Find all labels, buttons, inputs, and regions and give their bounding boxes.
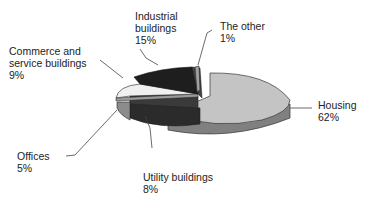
label-commerce-name-1: Commerce and <box>9 45 87 57</box>
label-commerce-name-2: service buildings <box>9 57 87 69</box>
label-housing: Housing 62% <box>318 99 357 123</box>
label-offices-pct: 5% <box>17 162 49 174</box>
label-commerce-pct: 9% <box>9 69 87 81</box>
label-utility-pct: 8% <box>143 183 213 195</box>
pie-chart <box>0 0 367 200</box>
label-utility-buildings: Utility buildings 8% <box>143 171 213 195</box>
label-other-name: The other <box>220 20 265 32</box>
label-housing-pct: 62% <box>318 111 357 123</box>
label-utility-name: Utility buildings <box>143 171 213 183</box>
label-industrial-pct: 15% <box>135 34 178 46</box>
label-commerce-and-service: Commerce and service buildings 9% <box>9 45 87 81</box>
label-the-other: The other 1% <box>220 20 265 44</box>
label-industrial-buildings: Industrial buildings 15% <box>135 10 178 46</box>
label-other-pct: 1% <box>220 32 265 44</box>
slice-offices <box>117 102 130 120</box>
label-offices: Offices 5% <box>17 150 49 174</box>
label-housing-name: Housing <box>318 99 357 111</box>
label-offices-name: Offices <box>17 150 49 162</box>
label-industrial-name-2: buildings <box>135 22 178 34</box>
label-industrial-name-1: Industrial <box>135 10 178 22</box>
